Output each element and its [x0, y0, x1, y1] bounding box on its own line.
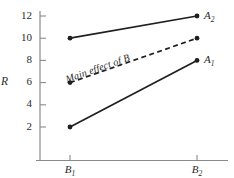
y-tick-label-4: 4 [10, 97, 32, 109]
x-category-label-b1-sub: 1 [71, 169, 75, 178]
y-tick-label-10: 10 [10, 31, 32, 43]
data-point-a1-b1 [68, 125, 73, 130]
y-axis-title: R [1, 75, 8, 87]
series-label-a2-base: A [204, 9, 211, 21]
x-category-label-b2: B2 [184, 163, 210, 178]
y-tick-label-6: 6 [10, 75, 32, 87]
data-point-main-effect-b2 [195, 36, 200, 41]
series-label-a1: A1 [204, 53, 214, 68]
y-axis-ticks [40, 16, 46, 127]
series-label-a1-sub: 1 [211, 59, 215, 68]
series-line-a2 [70, 16, 197, 38]
plot-canvas [0, 0, 234, 178]
data-point-a2-b2 [195, 14, 200, 19]
interaction-plot-figure: 12 10 8 6 4 2 R B1 B2 A2 A1 Main effect … [0, 0, 234, 178]
x-category-label-b1: B1 [57, 163, 83, 178]
series-label-a1-base: A [204, 53, 211, 65]
y-tick-label-2: 2 [10, 120, 32, 132]
y-tick-label-8: 8 [10, 53, 32, 65]
y-tick-label-12: 12 [10, 9, 32, 21]
x-category-label-b2-sub: 2 [198, 169, 202, 178]
series-label-a2-sub: 2 [211, 15, 215, 24]
data-point-a1-b2 [195, 58, 200, 63]
series-label-a2: A2 [204, 9, 214, 24]
data-point-a2-b1 [68, 36, 73, 41]
